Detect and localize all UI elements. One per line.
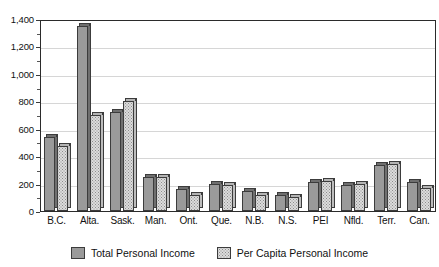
y-tick-mark xyxy=(36,212,40,213)
bar-front-face xyxy=(242,191,253,211)
bar-front-face xyxy=(341,185,352,211)
bar-top-face xyxy=(178,186,189,189)
bar-top-face xyxy=(257,192,268,195)
bar-top-face xyxy=(46,134,57,137)
x-tick-label: Terr. xyxy=(370,214,403,227)
x-tick-label: N.S. xyxy=(271,214,304,227)
y-tick-mark xyxy=(36,47,40,48)
bar[interactable] xyxy=(275,195,286,211)
legend-item[interactable]: Total Personal Income xyxy=(71,247,195,259)
bar-top-face xyxy=(290,194,301,197)
bar-front-face xyxy=(420,188,431,211)
bar-chart: 2004006008001,0001,2001,400 0 B.C.Alta.S… xyxy=(0,0,439,267)
bar[interactable] xyxy=(321,181,332,211)
x-tick-label: B.C. xyxy=(40,214,73,227)
bar-top-face xyxy=(211,181,222,184)
plot-area: 2004006008001,0001,2001,400 0 B.C.Alta.S… xyxy=(0,0,439,237)
bar[interactable] xyxy=(420,188,431,211)
bar-front-face xyxy=(110,112,121,211)
y-tick-label: 200 xyxy=(0,180,34,190)
y-tick-label: 600 xyxy=(0,125,34,135)
bar-group xyxy=(140,21,173,211)
legend-swatch-per-capita-personal-income xyxy=(217,247,231,259)
bar-side-face xyxy=(233,182,236,208)
bars-layer xyxy=(41,21,435,211)
y-tick-mark xyxy=(36,102,40,103)
y-axis: 2004006008001,0001,2001,400 xyxy=(0,14,34,212)
bar[interactable] xyxy=(255,195,266,211)
bar[interactable] xyxy=(341,185,352,211)
bar-group xyxy=(404,21,437,211)
bar-top-face xyxy=(191,192,202,195)
bar[interactable] xyxy=(242,191,253,211)
bar[interactable] xyxy=(176,189,187,211)
y-tick-mark-minor xyxy=(37,116,40,117)
y-tick-mark xyxy=(36,185,40,186)
bar[interactable] xyxy=(110,112,121,211)
y-tick-label: 1,200 xyxy=(0,42,34,52)
bar-top-face xyxy=(59,143,70,146)
bar-top-face xyxy=(323,178,334,181)
bar-front-face xyxy=(308,182,319,211)
bar[interactable] xyxy=(222,185,233,211)
legend-label: Total Personal Income xyxy=(91,247,195,259)
y-tick-mark-minor xyxy=(37,198,40,199)
y-tick-label: 800 xyxy=(0,97,34,107)
bar-top-face xyxy=(244,188,255,191)
bar-front-face xyxy=(387,164,398,211)
bar[interactable] xyxy=(189,195,200,211)
legend-label: Per Capita Personal Income xyxy=(237,247,368,259)
x-tick-label: PEI xyxy=(304,214,337,227)
x-tick-label: Man. xyxy=(139,214,172,227)
y-tick-mark-minor xyxy=(37,171,40,172)
bar-top-face xyxy=(343,182,354,185)
bar[interactable] xyxy=(209,184,220,211)
bar-top-face xyxy=(125,98,136,101)
legend-item[interactable]: Per Capita Personal Income xyxy=(217,247,368,259)
bar[interactable] xyxy=(374,165,385,211)
y-tick-mark-minor xyxy=(37,61,40,62)
bar[interactable] xyxy=(288,197,299,211)
bar[interactable] xyxy=(143,177,154,211)
bar-front-face xyxy=(77,26,88,211)
bar-side-face xyxy=(167,174,170,208)
bar[interactable] xyxy=(77,26,88,211)
bar[interactable] xyxy=(90,115,101,211)
y-tick-mark xyxy=(36,75,40,76)
bar[interactable] xyxy=(44,137,55,211)
bar[interactable] xyxy=(308,182,319,211)
bar-top-face xyxy=(389,161,400,164)
bar-top-face xyxy=(409,179,420,182)
bar[interactable] xyxy=(387,164,398,211)
bar[interactable] xyxy=(354,184,365,211)
bar-side-face xyxy=(134,98,137,208)
y-tick-label: 1,000 xyxy=(0,70,34,80)
bar-top-face xyxy=(145,174,156,177)
bar-group xyxy=(206,21,239,211)
x-tick-label: N.B. xyxy=(238,214,271,227)
y-tick-mark xyxy=(36,130,40,131)
bar[interactable] xyxy=(407,182,418,211)
bar-group xyxy=(107,21,140,211)
bar[interactable] xyxy=(156,177,167,211)
y-tick-mark-minor xyxy=(37,34,40,35)
chart-legend: Total Personal IncomePer Capita Personal… xyxy=(0,243,439,263)
plot-frame xyxy=(40,20,436,212)
y-tick-mark-minor xyxy=(37,89,40,90)
bar-group xyxy=(239,21,272,211)
bar-front-face xyxy=(222,185,233,211)
y-tick-label: 1,400 xyxy=(0,15,34,25)
x-tick-label: Que. xyxy=(205,214,238,227)
x-tick-label: Nfld. xyxy=(337,214,370,227)
bar-front-face xyxy=(176,189,187,211)
bar-side-face xyxy=(431,185,434,208)
bar-top-face xyxy=(92,112,103,115)
bar[interactable] xyxy=(57,146,68,211)
x-tick-label: Alta. xyxy=(73,214,106,227)
y-tick-mark xyxy=(36,20,40,21)
bar-top-face xyxy=(112,109,123,112)
bar[interactable] xyxy=(123,101,134,211)
y-tick-mark-minor xyxy=(37,143,40,144)
bar-top-face xyxy=(224,182,235,185)
bar-top-face xyxy=(422,185,433,188)
